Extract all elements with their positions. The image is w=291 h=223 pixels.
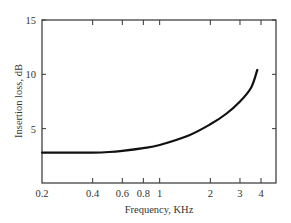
x-tick-label: 0.2 xyxy=(35,188,48,199)
y-axis-ticks: 51015 xyxy=(26,15,277,135)
x-axis-label: Frequency, KHz xyxy=(125,204,194,215)
x-tick-label: 2 xyxy=(208,188,213,199)
x-tick-label: 1 xyxy=(157,188,162,199)
y-tick-label: 5 xyxy=(31,124,36,135)
x-tick-label: 0.6 xyxy=(116,188,129,199)
data-line xyxy=(42,70,257,153)
y-axis-label: Insertion loss, dB xyxy=(13,64,24,138)
x-tick-label: 0.8 xyxy=(137,188,150,199)
x-tick-label: 0.4 xyxy=(86,188,100,199)
y-tick-label: 15 xyxy=(26,15,37,26)
insertion-loss-chart: 51015 0.20.40.60.81234 Frequency, KHz In… xyxy=(0,0,291,223)
x-tick-label: 3 xyxy=(237,188,242,199)
x-tick-label: 4 xyxy=(258,188,264,199)
y-tick-label: 10 xyxy=(26,69,37,80)
